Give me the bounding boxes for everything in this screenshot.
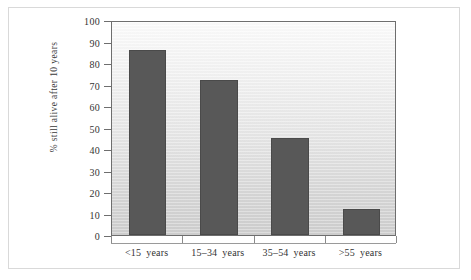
y-axis-tick-label: 30 xyxy=(54,166,100,177)
category-range: >55 xyxy=(339,247,355,258)
category-range: 15–34 xyxy=(191,247,217,258)
y-axis-tick-mark xyxy=(104,21,111,22)
x-axis-line xyxy=(111,243,396,244)
y-axis-tick-label: 60 xyxy=(54,102,100,113)
bar-chart-figure: % still alive after 10 years 01020304050… xyxy=(0,0,471,280)
category-unit: years xyxy=(146,247,168,258)
bar xyxy=(271,138,308,235)
x-axis-tick-mark xyxy=(396,236,397,243)
x-axis-category-label: 15–34years xyxy=(182,247,253,267)
y-axis-tick-label: 80 xyxy=(54,59,100,70)
y-axis-tick-label: 50 xyxy=(54,123,100,134)
category-unit: years xyxy=(294,247,316,258)
y-axis-tick-label: 10 xyxy=(54,209,100,220)
x-axis-tick-mark xyxy=(325,236,326,243)
bar xyxy=(343,209,380,235)
y-axis-tick-mark xyxy=(104,150,111,151)
bar-series xyxy=(112,22,395,235)
x-axis-tick-mark xyxy=(111,236,112,243)
x-axis-category-labels: <15years15–34years35–54years>55years xyxy=(111,247,396,267)
bar xyxy=(200,80,237,235)
y-axis-tick-label: 40 xyxy=(54,145,100,156)
y-axis-tick-mark xyxy=(104,172,111,173)
y-axis-tick-mark xyxy=(104,215,111,216)
y-axis-tick-label: 70 xyxy=(54,80,100,91)
plot-area xyxy=(111,21,396,236)
category-range: <15 xyxy=(125,247,141,258)
y-axis-tick-mark xyxy=(104,193,111,194)
y-axis-tick-mark xyxy=(104,86,111,87)
y-axis-tick-label: 100 xyxy=(54,16,100,27)
x-axis-category-label: 35–54years xyxy=(254,247,325,267)
x-axis-category-label: <15years xyxy=(111,247,182,267)
y-axis-tick-label: 0 xyxy=(54,231,100,242)
y-axis-tick-labels: 0102030405060708090100 xyxy=(52,0,100,280)
bar xyxy=(129,50,166,235)
x-axis-ticks xyxy=(111,236,396,246)
category-unit: years xyxy=(360,247,382,258)
category-unit: years xyxy=(222,247,244,258)
x-axis-category-label: >55years xyxy=(325,247,396,267)
y-axis-tick-mark xyxy=(104,107,111,108)
x-axis-tick-mark xyxy=(182,236,183,243)
y-axis-tick-mark xyxy=(104,43,111,44)
y-axis-tick-mark xyxy=(104,64,111,65)
y-axis-tick-label: 90 xyxy=(54,37,100,48)
x-axis-tick-mark xyxy=(254,236,255,243)
y-axis-tick-mark xyxy=(104,236,111,237)
y-axis-tick-label: 20 xyxy=(54,188,100,199)
category-range: 35–54 xyxy=(263,247,289,258)
y-axis-tick-mark xyxy=(104,129,111,130)
